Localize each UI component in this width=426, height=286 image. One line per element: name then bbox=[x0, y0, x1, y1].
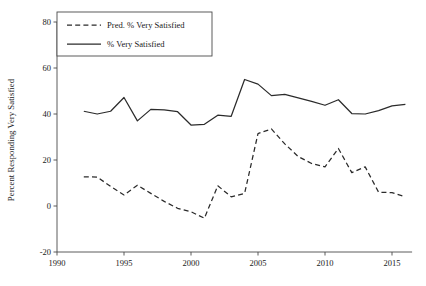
legend-label-actual: % Very Satisfied bbox=[107, 39, 165, 49]
y-tick-label: 0 bbox=[47, 201, 51, 211]
series-line-predicted bbox=[84, 129, 406, 218]
x-tick-label: 1990 bbox=[49, 258, 66, 268]
y-tick-label: 40 bbox=[43, 109, 52, 119]
data-series bbox=[84, 80, 406, 219]
y-tick-label: 60 bbox=[43, 63, 52, 73]
chart-container: -20020406080199019952000200520102015 Pre… bbox=[0, 0, 426, 286]
y-tick-label: -20 bbox=[40, 247, 51, 257]
x-tick-label: 2000 bbox=[183, 258, 200, 268]
series-line-actual bbox=[84, 80, 406, 126]
y-axis-title: Percent Responding Very Satisfied bbox=[6, 78, 16, 201]
y-tick-label: 20 bbox=[43, 155, 52, 165]
legend-box bbox=[57, 12, 212, 56]
x-tick-label: 2010 bbox=[317, 258, 334, 268]
y-tick-label: 80 bbox=[43, 17, 52, 27]
x-tick-label: 2015 bbox=[384, 258, 401, 268]
legend-label-predicted: Pred. % Very Satisfied bbox=[107, 20, 185, 30]
x-tick-label: 2005 bbox=[250, 258, 267, 268]
chart-legend: Pred. % Very Satisfied% Very Satisfied bbox=[57, 12, 212, 56]
x-tick-label: 1995 bbox=[116, 258, 133, 268]
line-chart: -20020406080199019952000200520102015 Pre… bbox=[0, 0, 426, 286]
